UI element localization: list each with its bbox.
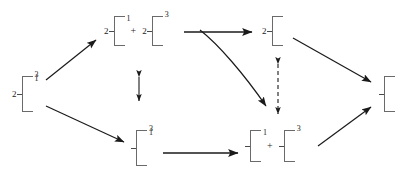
- source-node-bracket: 1 3: [22, 76, 33, 112]
- bottom-source-node-bottom-label: 3: [149, 125, 153, 133]
- top-row-group: 2 1 + 2 3: [104, 16, 163, 46]
- bracket-transformation-diagram: 2 1 3 2 1 + 2: [0, 0, 407, 184]
- arrow-vector-layer: [0, 0, 407, 184]
- bottom-source-node: 1 3: [131, 130, 147, 166]
- plus-operator-top: +: [125, 26, 143, 36]
- arrow-top-curved-to-bottom: [200, 30, 266, 106]
- bottom-product-a: 1: [245, 130, 261, 162]
- sink-node: [379, 76, 395, 112]
- top-product-b: 2 3: [142, 16, 163, 46]
- arrow-bottom-result-to-sink: [318, 107, 371, 146]
- arrow-top-result-to-sink: [293, 38, 371, 82]
- plus-operator-bottom: +: [261, 141, 279, 151]
- bottom-product-b-bottom-label: 3: [297, 125, 301, 133]
- top-product-a-top-label: 1: [127, 15, 131, 23]
- bottom-product-b: 3: [279, 130, 295, 162]
- sink-node-bracket: [384, 76, 395, 112]
- bottom-row-group: 1 + 3: [245, 130, 295, 162]
- top-product-b-bracket: 3: [152, 16, 163, 46]
- top-result-node-bracket: [272, 16, 283, 46]
- top-product-a-bracket: 1: [114, 16, 125, 46]
- top-product-a: 2 1: [104, 16, 125, 46]
- source-node-bottom-label: 3: [35, 71, 39, 79]
- source-node: 2 1 3: [12, 76, 33, 112]
- arrow-source-to-top: [46, 40, 96, 80]
- top-product-b-bottom-label: 3: [165, 11, 169, 19]
- bottom-source-node-bracket: 1 3: [136, 130, 147, 166]
- bottom-product-a-bracket: 1: [250, 130, 261, 162]
- arrow-source-to-bottom: [46, 106, 124, 142]
- bottom-product-a-top-label: 1: [263, 129, 267, 137]
- top-result-node: 2: [262, 16, 283, 46]
- bottom-product-b-bracket: 3: [284, 130, 295, 162]
